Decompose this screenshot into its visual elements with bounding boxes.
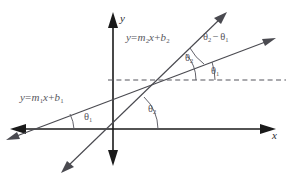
theta1-intersection-label: θ1	[211, 66, 219, 77]
difference-second-sub: 1	[225, 36, 228, 43]
theta1-xintercept-arc	[70, 114, 74, 129]
x-axis-label: x	[272, 130, 277, 141]
theta1-intersection-sub: 1	[216, 70, 219, 77]
angle-between-lines-figure: y x y=m2x+b2 y=m1x+b1 θ1 θ2 θ2 θ1 θ2−θ1	[0, 0, 288, 176]
theta2-origin-label: θ2	[148, 104, 156, 115]
line-1-equation-label: y=m1x+b1	[20, 92, 64, 105]
theta1-xintercept-label: θ1	[84, 112, 92, 123]
theta2-intersection-label: θ2	[185, 53, 193, 64]
theta2-minus-theta1-label: θ2−θ1	[203, 32, 228, 43]
theta2-intersection-sub: 2	[190, 57, 193, 64]
y-axis	[108, 12, 118, 166]
y-axis-bottom-arrowhead	[108, 150, 118, 166]
line-1-graph	[6, 38, 276, 140]
line-1-eq-intercept-sub: 1	[60, 97, 63, 104]
x-axis-left-arrowhead	[10, 124, 26, 134]
line-2-equation-label: y=m2x+b2	[126, 32, 170, 45]
line-2-eq-slope: m	[138, 31, 146, 43]
theta2-origin-sub: 2	[153, 108, 156, 115]
y-axis-label: y	[120, 13, 125, 24]
difference-minus: −	[211, 31, 220, 42]
y-axis-top-arrowhead	[108, 12, 118, 28]
theta1-xintercept-sub: 1	[89, 116, 92, 123]
line-1-stroke	[14, 41, 268, 137]
line-1-eq-slope: m	[32, 91, 40, 103]
figure-canvas	[0, 0, 288, 176]
line-1-left-arrowhead	[6, 132, 20, 140]
line-2-eq-intercept-sub: 2	[166, 37, 169, 44]
line-1-right-arrowhead	[262, 38, 276, 46]
x-axis	[10, 124, 276, 134]
